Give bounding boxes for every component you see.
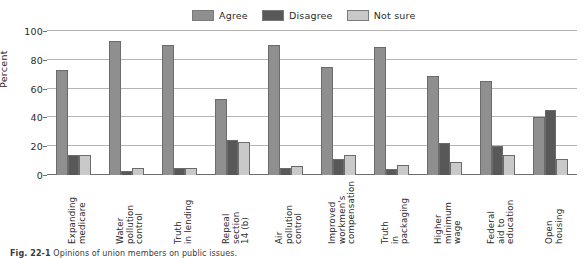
legend-swatch-icon [192, 10, 214, 21]
bar-agree [215, 99, 227, 175]
x-tick-label: control [135, 213, 145, 244]
bar-group [206, 31, 259, 175]
bar-notsure [503, 155, 515, 175]
x-tick-label: in lending [184, 200, 194, 244]
bar-group [418, 31, 471, 175]
bar-group [153, 31, 206, 175]
caption-text: Opinions of union members on public issu… [51, 249, 238, 258]
bar-group [259, 31, 312, 175]
bar-agree [162, 45, 174, 175]
bar-disagree [439, 143, 451, 175]
y-axis-title: Percent [0, 50, 9, 88]
bar-disagree [492, 146, 504, 175]
legend-item: Not sure [347, 10, 416, 21]
y-tick-label: 60 [17, 83, 43, 94]
bar-disagree [174, 168, 186, 175]
x-tick-label: medicare [78, 202, 88, 244]
y-tick-label: 0 [17, 170, 43, 181]
bar-agree [56, 70, 68, 175]
y-tick-label: 20 [17, 141, 43, 152]
x-tick-label: packaging [400, 198, 410, 244]
legend-item-label: Not sure [374, 10, 416, 21]
x-tick-label: wage [453, 220, 463, 244]
bar-notsure [450, 162, 462, 175]
bar-agree [321, 67, 333, 175]
y-tick-label: 80 [17, 54, 43, 65]
plot-area [47, 31, 577, 175]
bar-group [524, 31, 577, 175]
x-tick-label: education [506, 200, 516, 244]
x-tick-label: control [294, 213, 304, 244]
bar-notsure [397, 165, 409, 175]
bar-agree [533, 117, 545, 175]
bar-disagree [386, 169, 398, 175]
bar-notsure [79, 155, 91, 175]
x-axis-labels: ExpandingmedicareWaterpollutioncontrolTr… [47, 178, 577, 248]
bar-agree [374, 47, 386, 175]
bar-group [312, 31, 365, 175]
legend-item-label: Disagree [289, 10, 333, 21]
bar-agree [427, 76, 439, 175]
bar-notsure [185, 168, 197, 175]
bar-disagree [227, 140, 239, 175]
bar-notsure [291, 166, 303, 175]
bar-group [471, 31, 524, 175]
bar-notsure [556, 159, 568, 175]
bar-group [365, 31, 418, 175]
bar-agree [268, 45, 280, 175]
legend-swatch-icon [347, 10, 369, 21]
bar-notsure [344, 155, 356, 175]
legend-item: Disagree [262, 10, 333, 21]
bar-notsure [132, 168, 144, 175]
y-axis-ticks: 020406080100 [13, 31, 43, 175]
bar-group [47, 31, 100, 175]
legend-item: Agree [192, 10, 248, 21]
bar-disagree [333, 159, 345, 175]
bar-agree [480, 81, 492, 175]
bar-disagree [121, 171, 133, 175]
caption-number: Fig. 22-1 [10, 249, 51, 258]
bar-disagree [68, 155, 80, 175]
x-tick-label: 14 (b) [241, 217, 251, 244]
x-tick-label: compensation [347, 181, 357, 244]
y-tick-label: 100 [17, 26, 43, 37]
chart-legend: AgreeDisagreeNot sure [192, 8, 415, 22]
y-tick-mark [43, 175, 47, 176]
bar-disagree [280, 168, 292, 175]
y-tick-label: 40 [17, 112, 43, 123]
x-tick-label: housing [555, 209, 565, 244]
bar-notsure [238, 142, 250, 175]
legend-item-label: Agree [219, 10, 248, 21]
bar-agree [109, 41, 121, 175]
figure-caption: Fig. 22-1 Opinions of union members on p… [10, 249, 237, 258]
bar-chart-figure: AgreeDisagreeNot sure 020406080100 Perce… [0, 0, 587, 258]
legend-swatch-icon [262, 10, 284, 21]
bar-group [100, 31, 153, 175]
bar-disagree [545, 110, 557, 175]
